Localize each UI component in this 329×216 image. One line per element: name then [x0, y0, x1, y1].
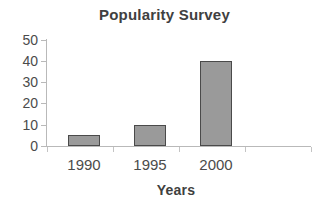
y-axis-line [46, 39, 47, 147]
x-axis-line [41, 146, 311, 147]
x-tick-label-1990: 1990 [51, 156, 117, 173]
bar-chart: Popularity Survey 50 40 30 20 10 0 1990 … [0, 0, 329, 216]
y-tick-label-20: 20 [8, 96, 38, 110]
x-tick-1 [113, 147, 114, 152]
y-tick-50 [41, 40, 47, 41]
y-tick-label-40: 40 [8, 54, 38, 68]
x-axis-title: Years [41, 182, 311, 198]
x-tick-label-1995: 1995 [117, 156, 183, 173]
y-tick-30 [41, 82, 47, 83]
y-tick-label-30: 30 [8, 75, 38, 89]
chart-title: Popularity Survey [0, 6, 329, 23]
x-tick-4 [311, 147, 312, 152]
y-tick-40 [41, 61, 47, 62]
y-tick-10 [41, 125, 47, 126]
y-tick-label-0: 0 [8, 139, 38, 153]
y-tick-label-10: 10 [8, 118, 38, 132]
x-tick-2 [179, 147, 180, 152]
bar-1995 [134, 125, 166, 146]
y-tick-20 [41, 103, 47, 104]
bar-2000 [200, 61, 232, 146]
x-tick-0 [47, 147, 48, 152]
bar-1990 [68, 135, 100, 146]
x-tick-3 [245, 147, 246, 152]
y-tick-label-50: 50 [8, 33, 38, 47]
x-tick-label-2000: 2000 [183, 156, 249, 173]
